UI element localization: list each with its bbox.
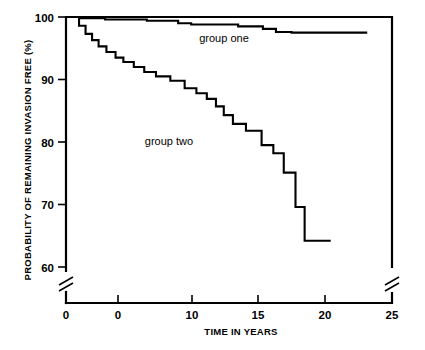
- plot-frame: [66, 17, 392, 303]
- x-tick-label-5: 0: [115, 309, 121, 321]
- series-line-group-one: [66, 17, 367, 33]
- y-tick-label-60: 60: [41, 262, 54, 274]
- x-tick-labels: 0 0 10 15 20 25: [63, 309, 399, 321]
- y-tick-labels: 100 90 80 70 60: [35, 12, 54, 274]
- annotation-group-two: group two: [145, 135, 193, 147]
- right-axis-break: [385, 277, 399, 291]
- y-axis: [58, 17, 73, 303]
- y-tick-label-80: 80: [41, 137, 54, 149]
- survival-curve-chart: 100 90 80 70 60 0 0 10 15 20 25 TIME IN …: [0, 0, 425, 350]
- y-axis-title: PROBABILITY OF REMAINING INVASION FREE (…: [22, 40, 33, 281]
- x-tick-label-10: 10: [186, 309, 199, 321]
- chart-figure: 100 90 80 70 60 0 0 10 15 20 25 TIME IN …: [0, 0, 425, 350]
- annotation-group-one: group one: [199, 32, 249, 44]
- y-tick-label-100: 100: [35, 12, 54, 24]
- x-tick-label-20: 20: [319, 309, 332, 321]
- x-axis: [66, 295, 392, 303]
- x-tick-label-25: 25: [386, 309, 399, 321]
- x-tick-label-0: 0: [63, 309, 69, 321]
- x-axis-title: TIME IN YEARS: [204, 326, 277, 337]
- series-line-group-two: [66, 17, 331, 241]
- y-tick-label-90: 90: [41, 74, 54, 86]
- x-tick-label-15: 15: [252, 309, 265, 321]
- y-tick-label-70: 70: [41, 199, 54, 211]
